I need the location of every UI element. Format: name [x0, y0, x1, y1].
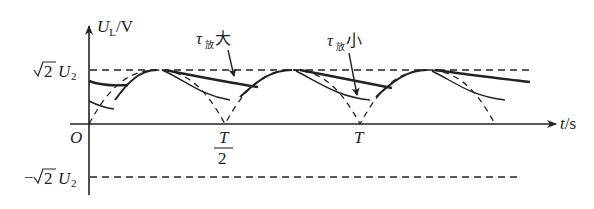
svg-text:τ: τ: [196, 29, 203, 48]
annotation-tau-small: τ 放 小: [327, 31, 362, 52]
svg-text:τ: τ: [327, 31, 334, 50]
charging-curve: [376, 70, 427, 97]
svg-text:放: 放: [336, 41, 345, 52]
y-axis-label: UL/V: [97, 17, 134, 38]
annotation-tau-large: τ 放 大: [196, 29, 231, 50]
svg-text:−: −: [24, 168, 34, 187]
rectified-sine-dashed: [89, 70, 495, 124]
svg-text:T: T: [219, 128, 230, 147]
positive-peak-label: 2 U 2: [34, 62, 77, 82]
svg-text:小: 小: [346, 31, 362, 50]
svg-text:2: 2: [44, 169, 53, 188]
svg-text:2: 2: [71, 70, 77, 82]
charging-curve: [240, 70, 292, 97]
svg-text:大: 大: [215, 29, 231, 48]
discharge-small-tau: [89, 70, 505, 109]
annotation-arrow-large: [228, 50, 234, 76]
tick-period: T: [354, 128, 365, 147]
waveform-diagram: UL/V t/s O 2 U 2 − 2 U 2 T 2 T τ 放 大 τ 放…: [0, 0, 594, 209]
x-axis-label: t/s: [560, 114, 576, 133]
svg-text:放: 放: [205, 39, 214, 50]
svg-text:2: 2: [218, 149, 227, 168]
svg-text:2: 2: [71, 177, 77, 189]
svg-text:U: U: [58, 62, 72, 81]
svg-text:2: 2: [44, 62, 53, 81]
discharge-large-tau: [89, 70, 530, 88]
negative-peak-label: − 2 U 2: [24, 168, 77, 189]
svg-text:U: U: [58, 169, 72, 188]
origin-label: O: [70, 128, 82, 147]
tick-half-period: T 2: [214, 128, 233, 168]
annotation-arrow-small: [349, 53, 357, 95]
